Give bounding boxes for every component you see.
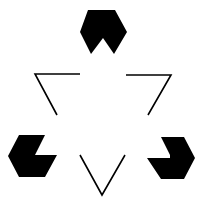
kanizsa-figure — [0, 0, 206, 205]
